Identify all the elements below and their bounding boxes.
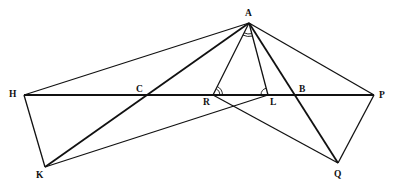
label-k: K: [36, 170, 44, 180]
angle-mark-a: [244, 33, 252, 34]
point-labels: A H C R L B P K Q: [9, 8, 385, 180]
segment-hk: [24, 95, 45, 167]
segment-kl: [45, 95, 268, 167]
label-l: L: [270, 97, 276, 107]
label-r: R: [203, 97, 210, 107]
segment-ap: [249, 23, 374, 95]
label-a: A: [245, 8, 252, 18]
line-segments: [24, 23, 374, 167]
segment-pq: [338, 95, 374, 163]
angle-mark-r: [216, 89, 220, 95]
angle-marks: [216, 33, 266, 95]
label-c: C: [136, 84, 143, 94]
label-p: P: [379, 90, 385, 100]
label-h: H: [9, 89, 17, 99]
angle-mark-a: [243, 35, 252, 36]
label-q: Q: [334, 169, 341, 179]
segment-ar: [213, 23, 249, 95]
geometry-diagram: A H C R L B P K Q: [0, 0, 398, 187]
angle-mark-l: [261, 88, 266, 95]
label-b: B: [299, 84, 306, 94]
segment-aq: [249, 23, 338, 163]
